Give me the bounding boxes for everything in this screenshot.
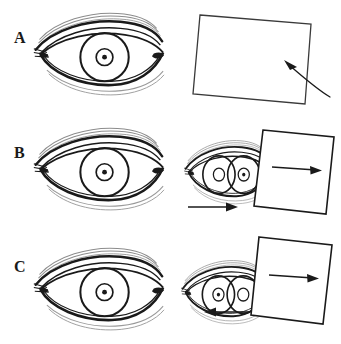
iris-primary xyxy=(228,156,260,193)
iris-deviated xyxy=(203,156,235,193)
row-b-graphics xyxy=(0,115,341,230)
row-a-graphics xyxy=(0,0,341,115)
iris-refixated xyxy=(202,276,234,313)
eye-diagram-a-left xyxy=(34,13,164,95)
occluder-card-outline xyxy=(193,15,311,104)
figure-canvas: A xyxy=(0,0,341,344)
row-c-graphics xyxy=(0,229,341,344)
occluder-card-outline xyxy=(251,237,332,324)
panel-row-a: A xyxy=(0,0,341,115)
occluder-card-outline xyxy=(254,130,334,214)
occluder-card-b xyxy=(254,130,334,214)
occluder-card-c xyxy=(251,237,332,324)
eye-diagram-c-left xyxy=(34,248,164,330)
eye-diagram-b-left xyxy=(34,128,164,210)
panel-row-c: C xyxy=(0,229,341,344)
occluder-card-a xyxy=(193,15,311,104)
panel-row-b: B xyxy=(0,115,341,230)
